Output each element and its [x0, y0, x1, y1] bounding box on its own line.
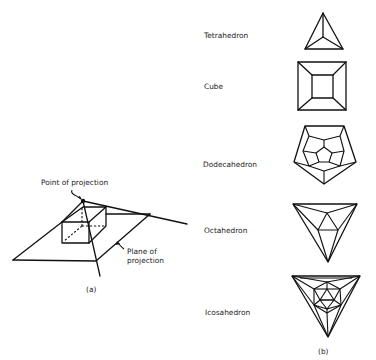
point-leader-arrowhead — [78, 196, 82, 200]
figure-b-polyhedra: Tetrahedron Cube Dodecahedron Octahedron… — [203, 13, 360, 356]
plane-edge-left — [13, 222, 62, 260]
plane-of-projection-label-1: Plane of — [127, 247, 157, 256]
label-octahedron: Octahedron — [204, 226, 248, 235]
icosahedron-diagram — [292, 276, 360, 337]
projector-line-down — [83, 201, 100, 276]
figure-a-caption: (a) — [86, 285, 96, 294]
projector-line-right — [83, 201, 187, 224]
label-tetrahedron: Tetrahedron — [203, 31, 249, 40]
point-of-projection-label: Point of projection — [41, 178, 108, 187]
label-icosahedron: Icosahedron — [205, 308, 250, 317]
hidden-edge-diagonal — [64, 226, 82, 241]
figure-a-projection: Point of projection Plane of projection … — [13, 178, 187, 294]
label-dodecahedron: Dodecahedron — [203, 160, 257, 169]
dodecahedron-diagram — [294, 126, 356, 184]
octahedron-diagram — [293, 204, 357, 262]
figure-b-caption: (b) — [318, 347, 329, 356]
tetrahedron-diagram — [305, 13, 343, 49]
cube-diagram — [298, 62, 346, 110]
plane-of-projection-label-2: projection — [127, 256, 164, 265]
diagram-canvas: Point of projection Plane of projection … — [0, 0, 376, 360]
plane-edge-left-upper — [62, 201, 83, 222]
label-cube: Cube — [204, 82, 224, 91]
